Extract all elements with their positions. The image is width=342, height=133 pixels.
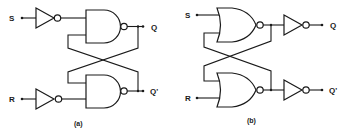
nand-gate-top-icon <box>86 10 127 43</box>
output-q-terminal-b <box>321 24 324 27</box>
output-q-label: Q <box>151 23 157 32</box>
nand-gate-bottom-icon <box>86 75 127 108</box>
caption-b: (b) <box>247 117 256 125</box>
input-r-label-b: R <box>185 94 191 103</box>
inverter-q-icon <box>284 15 309 35</box>
sr-latch-diagram: S Q R <box>0 0 342 133</box>
input-r-label: R <box>9 95 15 104</box>
inverter-r-icon <box>36 89 62 109</box>
output-q-terminal <box>142 25 145 28</box>
nor-gate-bottom-icon <box>217 73 263 107</box>
output-q-prime-terminal-b <box>321 89 324 92</box>
inverter-s-icon <box>36 8 61 28</box>
caption-a: (a) <box>74 120 83 128</box>
output-q-prime-terminal <box>142 90 145 93</box>
output-q-label-b: Q <box>330 21 336 30</box>
inverter-q-prime-icon <box>284 80 309 100</box>
circuit-a: S Q R <box>9 8 158 128</box>
output-q-prime-label: Q' <box>150 87 158 96</box>
input-s-label: S <box>9 14 15 23</box>
nor-gate-top-icon <box>217 8 263 42</box>
output-q-prime-label-b: Q' <box>329 86 337 95</box>
circuit-b: S Q R <box>185 8 337 125</box>
input-s-label-b: S <box>185 11 191 20</box>
